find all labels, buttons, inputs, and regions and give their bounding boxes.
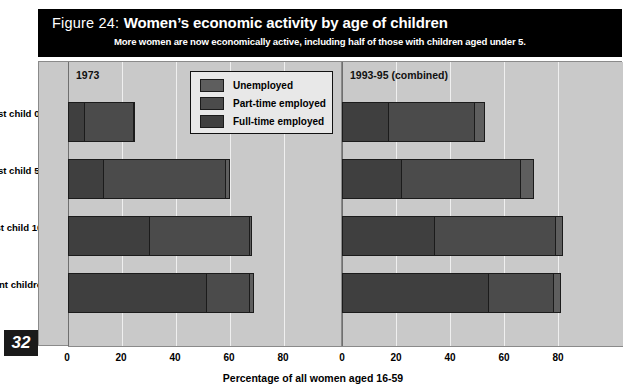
- legend-item-unemployed[interactable]: Unemployed: [200, 78, 293, 93]
- bar-row: [342, 273, 561, 313]
- bar-row: [342, 159, 534, 199]
- bar-row: [68, 102, 136, 142]
- xtick-left-0: 0: [64, 352, 70, 363]
- xtick-left-80: 80: [277, 352, 288, 363]
- panel-baseline: [68, 346, 341, 347]
- bar-segment-part-time: [388, 102, 474, 142]
- bar-row: [68, 216, 252, 256]
- bar-segment-full-time: [342, 159, 401, 199]
- figure-number: Figure 24:: [52, 15, 119, 31]
- panel-1993-95: 1993-95 (combined): [342, 62, 623, 347]
- x-axis-title: Percentage of all women aged 16-59: [0, 372, 626, 384]
- page-title: Women’s economic activity by age of chil…: [124, 14, 448, 31]
- xtick-right-20: 20: [390, 352, 401, 363]
- bar-segment-full-time: [68, 102, 84, 142]
- chart-legend: Unemployed Part-time employed Full-time …: [190, 71, 333, 134]
- bar-segment-full-time: [68, 216, 149, 256]
- bar-segment-full-time: [342, 216, 434, 256]
- page-number-badge: 32: [4, 330, 38, 356]
- bar-segment-unemployed: [249, 273, 254, 313]
- legend-label: Unemployed: [233, 80, 293, 91]
- panel-baseline: [342, 346, 623, 347]
- xtick-right-40: 40: [444, 352, 455, 363]
- figure-subtitle: More women are now economically active, …: [114, 36, 526, 47]
- legend-item-full-time[interactable]: Full-time employed: [200, 114, 324, 129]
- bar-segment-full-time: [342, 273, 488, 313]
- panel-label-1973: 1973: [76, 69, 99, 81]
- bar-segment-part-time: [103, 159, 225, 199]
- panel-label-1993-95: 1993-95 (combined): [350, 69, 448, 81]
- bar-segment-full-time: [68, 273, 206, 313]
- bar-segment-unemployed: [474, 102, 485, 142]
- bar-segment-part-time: [149, 216, 249, 256]
- bar-segment-part-time: [84, 102, 133, 142]
- bar-segment-full-time: [68, 159, 103, 199]
- bar-row: [68, 273, 254, 313]
- bar-segment-unemployed: [555, 216, 563, 256]
- xtick-right-60: 60: [498, 352, 509, 363]
- bar-segment-unemployed: [133, 102, 136, 142]
- bar-segment-unemployed: [249, 216, 252, 256]
- legend-item-part-time[interactable]: Part-time employed: [200, 96, 326, 111]
- bar-row: [68, 159, 230, 199]
- bar-segment-part-time: [488, 273, 553, 313]
- legend-label: Full-time employed: [233, 116, 324, 127]
- bar-segment-unemployed: [553, 273, 561, 313]
- bar-row: [342, 102, 485, 142]
- xtick-left-60: 60: [223, 352, 234, 363]
- legend-label: Part-time employed: [233, 98, 326, 109]
- bar-row: [342, 216, 563, 256]
- figure-container: Figure 24: Women’s economic activity by …: [0, 0, 626, 391]
- bar-segment-unemployed: [520, 159, 534, 199]
- bar-segment-unemployed: [225, 159, 230, 199]
- bar-segment-full-time: [342, 102, 388, 142]
- legend-swatch-icon: [200, 79, 224, 92]
- title-banner: Figure 24: Women’s economic activity by …: [38, 9, 622, 57]
- xtick-left-40: 40: [169, 352, 180, 363]
- title-line: Figure 24: Women’s economic activity by …: [52, 14, 448, 32]
- legend-swatch-icon: [200, 115, 224, 128]
- legend-swatch-icon: [200, 97, 224, 110]
- xtick-left-20: 20: [115, 352, 126, 363]
- bar-segment-part-time: [206, 273, 249, 313]
- bar-segment-part-time: [401, 159, 520, 199]
- xtick-right-80: 80: [552, 352, 563, 363]
- xtick-right-0: 0: [339, 352, 345, 363]
- bar-segment-part-time: [434, 216, 556, 256]
